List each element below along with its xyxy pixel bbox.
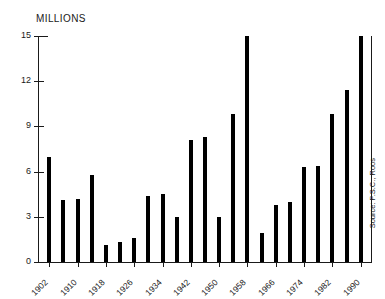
bar [47,157,51,262]
y-tick-label: 12 [11,75,31,85]
x-tick-label: 1926 [114,277,134,297]
x-tick-label: 1902 [30,277,50,297]
y-tick-label: 6 [11,166,31,176]
y-tick-label: 0 [11,256,31,266]
x-tick-label: 1990 [341,277,361,297]
plot-area [38,36,372,262]
x-tick-label: 1918 [86,277,106,297]
x-tick-mark [191,263,192,267]
y-tick-label: 15 [11,30,31,40]
bar [203,137,207,262]
x-tick-label: 1958 [228,277,248,297]
y-tick-label: 3 [11,211,31,221]
bar [146,196,150,262]
x-tick-mark [219,263,220,267]
x-tick-mark [134,263,135,267]
y-tick-label: 9 [11,120,31,130]
x-tick-label: 1974 [284,277,304,297]
source-note: Source: P.S.C., Roos [368,158,377,228]
x-tick-mark [332,263,333,267]
bar [132,238,136,262]
x-tick-label: 1942 [171,277,191,297]
bar [231,114,235,262]
bar [189,140,193,262]
x-tick-label: 1934 [143,277,163,297]
bar-chart-figure: MILLIONS 03691215 1902191019181926193419… [0,0,385,299]
x-tick-label: 1982 [313,277,333,297]
bar [61,200,65,262]
bar [161,194,165,262]
bar [330,114,334,262]
bar [76,199,80,262]
bar [274,205,278,262]
x-tick-label: 1910 [58,277,78,297]
x-tick-mark [304,263,305,267]
x-tick-mark [361,263,362,267]
bar [302,167,306,262]
bar [245,36,249,262]
x-tick-mark [247,263,248,267]
bar [316,166,320,262]
y-tick-mark [34,262,39,263]
x-tick-mark [106,263,107,267]
bar [345,90,349,262]
bar [288,202,292,262]
bar [118,242,122,262]
x-tick-mark [163,263,164,267]
x-axis-line [38,262,372,263]
bar [217,217,221,262]
bar [104,245,108,262]
x-tick-mark [78,263,79,267]
x-tick-label: 1950 [199,277,219,297]
bar [175,217,179,262]
bar [90,175,94,262]
x-tick-label: 1966 [256,277,276,297]
bar [260,233,264,262]
x-tick-mark [276,263,277,267]
y-axis-title: MILLIONS [36,13,86,24]
bar [359,36,363,262]
x-tick-mark [49,263,50,267]
